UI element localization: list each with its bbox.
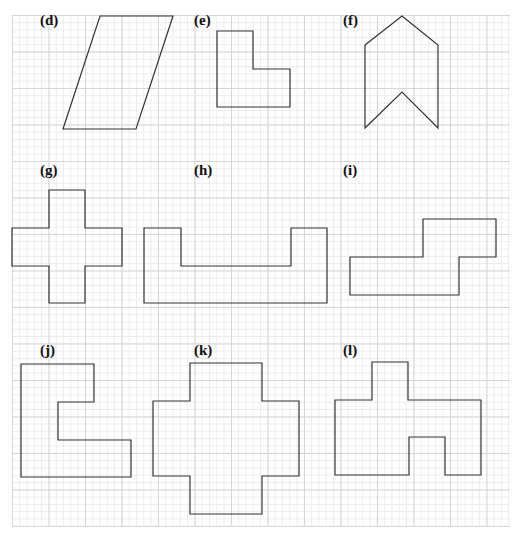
panel-label: (f) — [343, 12, 358, 29]
shape-step-shape — [350, 219, 496, 295]
shape-big-cross — [153, 363, 299, 514]
panel-label: (i) — [343, 162, 357, 179]
shape-chevron — [365, 16, 438, 128]
panel-label: (d) — [40, 12, 58, 29]
panel-label: (e) — [194, 12, 211, 29]
shape-C-shape — [21, 364, 131, 477]
shapes-layer — [0, 0, 519, 539]
panel-label: (h) — [194, 162, 212, 179]
panel-label: (l) — [343, 342, 357, 359]
panel-label: (g) — [40, 162, 58, 179]
shape-compound-shape — [335, 362, 481, 475]
panel-label: (k) — [194, 342, 212, 359]
shape-U-shape — [144, 228, 327, 303]
shape-cross — [12, 190, 122, 303]
shape-parallelogram — [63, 16, 173, 129]
panel-label: (j) — [40, 342, 55, 359]
shape-L-shape — [217, 31, 290, 107]
